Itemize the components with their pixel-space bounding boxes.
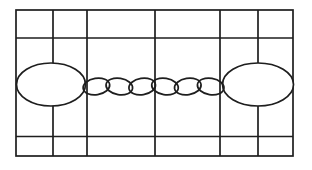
right-oval-link xyxy=(223,63,294,106)
bracelet-line-drawing xyxy=(0,0,312,170)
diagram-canvas xyxy=(0,0,312,170)
left-oval-link xyxy=(17,63,86,106)
